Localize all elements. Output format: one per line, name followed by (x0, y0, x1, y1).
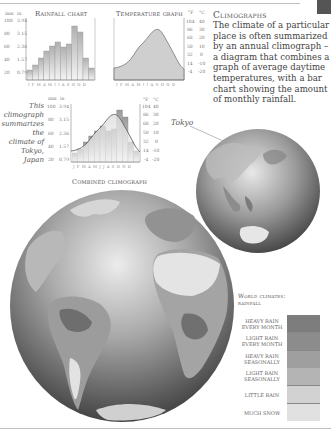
y-tick: 20 (48, 157, 54, 162)
y-tick: -10 (198, 61, 205, 66)
y-tick: 30 (199, 27, 205, 32)
combined-chart-plot: JFMAMJJASOND (70, 104, 142, 174)
y-tick: -4 (144, 157, 148, 162)
y-tick: 60 (4, 44, 10, 49)
legend-swatch-much-snow (287, 404, 320, 421)
y-tick: 20 (4, 70, 10, 75)
unit-in: in (17, 11, 21, 16)
y-tick: 32 (143, 139, 149, 144)
temperature-area: JFMAMJJASOND (113, 18, 187, 86)
bottom-rule (0, 428, 331, 429)
y-tick: 50 (143, 130, 149, 135)
y-tick: 20 (153, 121, 159, 126)
y-tick: 40 (48, 144, 54, 149)
legend-swatch-light-rain-seasonally (287, 368, 320, 386)
y-tick: 104 (142, 104, 151, 109)
unit-f: °F (143, 97, 148, 102)
y-tick: 86 (143, 112, 149, 117)
y-tick: 10 (199, 44, 205, 49)
unit-c: °C (199, 10, 205, 15)
y-tick: 40 (199, 19, 205, 24)
y-tick: -10 (152, 148, 159, 153)
y-tick: 3.15 (59, 117, 69, 122)
y-tick: 10 (153, 130, 159, 135)
y-tick: 14 (143, 148, 149, 153)
y-tick: 2.36 (59, 131, 69, 136)
legend-label-line: SEASONALLY (232, 359, 292, 365)
legend-label-line: EVERY MONTH (232, 324, 292, 330)
legend-label-line: SEASONALLY (232, 376, 292, 382)
legend-label-heavy-rain-seasonally: HEAVY RAIN SEASONALLY (232, 353, 292, 365)
legend-label-much-snow: MUCH SNOW (232, 410, 292, 416)
y-tick: 100 (47, 104, 56, 109)
legend-label-line: LITTLE RAIN (232, 392, 292, 398)
y-tick: 68 (143, 121, 149, 126)
y-tick: 80 (4, 31, 10, 36)
y-tick: 80 (48, 117, 54, 122)
y-tick: 40 (4, 57, 10, 62)
y-tick: 100 (4, 18, 13, 23)
intro-title: Climographs (213, 10, 267, 20)
legend-label-line: EVERY MONTH (232, 341, 292, 347)
combined-chart-title: Combined climograph (72, 178, 147, 186)
legend-swatch-heavy-rain-seasonally (287, 351, 320, 369)
legend-swatch-light-rain-every-month (287, 333, 320, 351)
legend-label-line: MUCH SNOW (232, 410, 292, 416)
y-tick: 30 (153, 112, 159, 117)
temperature-chart-title: Temperature graph (116, 10, 183, 18)
svg-text:JFMAMJJASOND: JFMAMJJASOND (27, 82, 88, 87)
y-tick: 0 (155, 139, 158, 144)
legend-label-light-rain-every-month: LIGHT RAIN EVERY MONTH (232, 335, 292, 347)
y-tick: 0.79 (59, 157, 69, 162)
unit-mm: mm (48, 96, 57, 101)
intro-text: The climate of a particular place is oft… (213, 20, 331, 105)
caption-line: summarizes the (0, 120, 44, 138)
legend-title-line: World climates: (238, 292, 298, 299)
svg-text:JFMAMJJASOND: JFMAMJJASOND (72, 164, 133, 169)
corner-tab-block (317, 0, 331, 14)
legend-label-light-rain-seasonally: LIGHT RAIN SEASONALLY (232, 370, 292, 382)
legend-label-little-rain: LITTLE RAIN (232, 392, 292, 398)
y-tick: 50 (187, 44, 193, 49)
rainfall-bars: JFMAMJJASOND (25, 18, 97, 86)
rainfall-chart-title: Rainfall chart (35, 10, 87, 18)
legend-swatch-little-rain (287, 386, 320, 404)
y-tick: -4 (188, 69, 192, 74)
y-tick: 60 (48, 131, 54, 136)
y-tick: 32 (187, 52, 193, 57)
y-tick: -20 (198, 69, 205, 74)
unit-c: °C (153, 97, 159, 102)
top-rule (0, 3, 300, 4)
y-tick: 1.57 (59, 144, 69, 149)
unit-in: in (60, 96, 64, 101)
caption-line: Tokyo, Japan (0, 147, 44, 165)
y-tick: 14 (187, 61, 193, 66)
legend-title-line: rainfall (238, 299, 298, 306)
unit-f: °F (188, 10, 193, 15)
y-tick: 104 (186, 19, 195, 24)
legend-title: World climates: rainfall (238, 292, 298, 306)
y-tick: 40 (153, 104, 159, 109)
legend-label-heavy-rain-every-month: HEAVY RAIN EVERY MONTH (232, 318, 292, 330)
y-tick: 3.94 (59, 104, 69, 109)
y-tick: 0 (200, 52, 203, 57)
unit-mm: mm (5, 11, 14, 16)
svg-text:JFMAMJJASOND: JFMAMJJASOND (115, 82, 177, 87)
caption-line: This (0, 102, 44, 111)
y-tick: 68 (187, 35, 193, 40)
legend-swatch-heavy-rain-every-month (287, 315, 320, 333)
caption-line: climate of (0, 138, 44, 147)
y-tick: 20 (199, 35, 205, 40)
y-tick: -20 (152, 157, 159, 162)
atlantic-globe (8, 188, 236, 424)
caption-line: climograph (0, 111, 44, 120)
caption: This climograph summarizes the climate o… (0, 102, 44, 165)
y-tick: 86 (187, 27, 193, 32)
